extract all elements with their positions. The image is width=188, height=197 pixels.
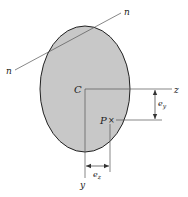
y-axis-label: y — [79, 180, 86, 190]
eccentric-load-diagram: n n C z y P × ey ez — [0, 0, 188, 197]
centroid-label: C — [74, 84, 82, 95]
load-point-label: P — [99, 115, 107, 126]
ey-label-sub: y — [162, 102, 167, 110]
ez-label-sub: z — [97, 173, 102, 180]
neutral-axis-label-start: n — [6, 66, 12, 76]
z-axis-label: z — [173, 85, 179, 95]
load-point-marker: × — [108, 116, 115, 125]
neutral-axis-label-end: n — [124, 7, 130, 17]
ey-label: ey — [158, 99, 167, 110]
ez-label: ez — [93, 170, 102, 180]
